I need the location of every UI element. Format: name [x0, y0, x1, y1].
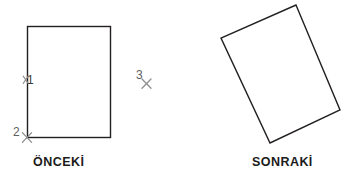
marker-3-x-icon [142, 79, 151, 88]
after-panel-caption: SONRAKİ [252, 155, 313, 169]
marker-label-1: 1 [27, 74, 34, 86]
after-rectangle [221, 5, 340, 143]
marker-label-3: 3 [136, 69, 143, 81]
marker-label-2: 2 [13, 126, 20, 138]
figure-root: 1 2 3 ÖNCEKİ SONRAKİ [0, 0, 356, 187]
before-rectangle [28, 27, 111, 138]
before-panel-caption: ÖNCEKİ [33, 155, 84, 169]
